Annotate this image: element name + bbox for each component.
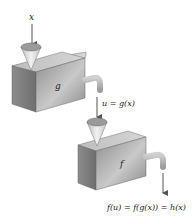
output-label: f(u) = f(g(x)) = h(x) [106, 203, 186, 212]
f-spout-icon [146, 155, 163, 167]
composition-diagram: x g u = g(x) f f(u) = f(g(x)) = h(x) [0, 0, 196, 217]
machine-g-label: g [55, 81, 61, 91]
machine-g: g [12, 43, 100, 112]
g-spout-icon [85, 78, 100, 90]
g-left-face [12, 66, 36, 112]
machine-f: f [78, 118, 163, 190]
input-label: x [29, 12, 34, 22]
intermediate-label: u = g(x) [102, 99, 135, 108]
f-left-face [78, 145, 96, 190]
